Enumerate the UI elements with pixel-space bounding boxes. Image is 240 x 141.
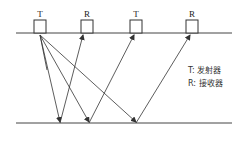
incident-ray-3 [40, 35, 136, 122]
transducer-box-4 [186, 20, 198, 33]
transducer-label-1: T [37, 9, 43, 19]
reflected-ray-3 [136, 35, 190, 123]
transducer-box-3 [130, 20, 142, 33]
transducer-box-1 [34, 20, 46, 33]
reflected-ray-2 [89, 35, 134, 123]
legend-transmitter: T: 发射器 [187, 65, 221, 75]
transducer-box-2 [81, 20, 93, 33]
legend-receiver: R: 接收器 [188, 78, 223, 88]
reflected-ray-1 [60, 35, 83, 123]
transducer-label-2: R [84, 9, 90, 19]
transducer-label-3: T [133, 9, 139, 19]
wave-propagation-diagram: T R T R T: 发射器 R: 接收器 [0, 0, 240, 141]
transducer-label-4: R [189, 9, 195, 19]
incident-ray-2 [40, 35, 89, 122]
